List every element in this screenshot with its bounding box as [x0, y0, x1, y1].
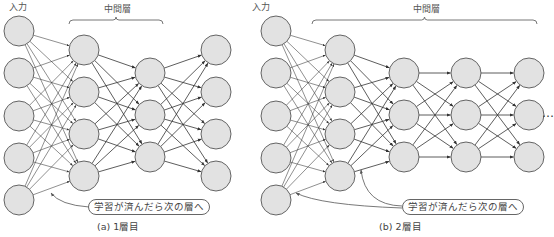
edge-arrow — [164, 161, 201, 172]
neuron — [69, 119, 99, 149]
hidden-layer-bracket — [69, 17, 163, 24]
panel-b-hidden-layer-label: 中間層 — [413, 5, 440, 14]
panel-b-caption: (b) 2層目 — [379, 222, 422, 232]
edge-arrow — [98, 161, 135, 172]
edge-arrow — [95, 84, 139, 124]
edge-arrow — [351, 84, 393, 124]
neuron — [201, 119, 231, 149]
callout-pointer-arrow — [51, 193, 89, 207]
input-neuron — [261, 185, 291, 215]
panel-a-next-layer-callout: 学習が済んだら次の層へ — [88, 199, 210, 215]
edge-arrow — [290, 77, 325, 87]
neuron — [514, 142, 544, 172]
neuron — [69, 35, 99, 65]
hidden-layer-bracket — [312, 17, 537, 24]
neuron — [451, 58, 481, 88]
neuron — [201, 77, 231, 107]
input-neuron — [261, 16, 291, 46]
edge-arrow — [284, 86, 332, 163]
continuation-ellipsis: … — [542, 107, 554, 119]
edge-arrow — [287, 83, 329, 123]
panel-a-hidden-layer-label: 中間層 — [104, 5, 131, 14]
edge-arrow — [351, 126, 393, 166]
neuron — [389, 100, 419, 130]
callout-pointer-arrow — [296, 193, 402, 208]
edge-arrow — [290, 55, 325, 68]
edge-arrow — [33, 35, 69, 46]
input-neuron — [4, 101, 34, 131]
neuron — [325, 161, 355, 191]
input-neuron — [4, 58, 34, 88]
input-neuron — [261, 58, 291, 88]
neuron — [201, 161, 231, 191]
panel-b-next-layer-callout: 学習が済んだら次の層へ — [402, 199, 524, 215]
neuron — [451, 142, 481, 172]
panel-b-input-label: 入力 — [252, 3, 270, 12]
panel-a-input-label: 入力 — [9, 3, 27, 12]
callout-pointer-arrow — [361, 170, 402, 206]
edge-arrow — [290, 181, 326, 194]
edge-arrow — [354, 161, 389, 171]
neural-network-layerwise-figure: 入力 中間層 学習が済んだら次の層へ (a) 1層目 入力 中間層 学習が済んだ… — [0, 0, 554, 237]
neuron — [201, 35, 231, 65]
neuron — [325, 35, 355, 65]
hidden-layer-brackets — [69, 17, 537, 24]
input-neuron — [4, 16, 34, 46]
edge-arrow — [164, 55, 201, 68]
panel-a-caption: (a) 1層目 — [97, 222, 139, 232]
edge-arrow — [33, 77, 69, 88]
input-neuron — [4, 143, 34, 173]
neuron — [514, 100, 544, 130]
neuron-nodes — [4, 16, 544, 215]
edge-arrow — [95, 126, 139, 166]
neuron — [389, 58, 419, 88]
edge-arrow — [354, 55, 389, 68]
edge-arrow — [27, 86, 76, 163]
neuron — [451, 100, 481, 130]
neuron — [135, 58, 165, 88]
neuron — [135, 100, 165, 130]
neuron — [69, 77, 99, 107]
edge-arrow — [290, 35, 325, 45]
edge-arrow — [98, 55, 135, 68]
input-neuron — [261, 101, 291, 131]
edge-arrow — [30, 83, 73, 123]
neuron — [325, 119, 355, 149]
neuron — [325, 77, 355, 107]
edge-arrow — [158, 63, 208, 144]
edge-arrow — [164, 139, 201, 152]
input-neuron — [261, 143, 291, 173]
input-neuron — [4, 185, 34, 215]
neuron — [389, 142, 419, 172]
neuron — [135, 142, 165, 172]
neuron — [514, 58, 544, 88]
neuron — [69, 161, 99, 191]
